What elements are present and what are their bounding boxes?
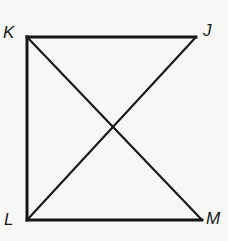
vertex-label-l: L	[4, 210, 13, 229]
vertex-label-j: J	[202, 21, 212, 40]
geometry-diagram: KJLM	[0, 0, 228, 241]
diagonals	[27, 37, 202, 220]
vertex-label-k: K	[3, 23, 15, 42]
vertex-label-m: M	[206, 209, 221, 228]
diagram-canvas: KJLM	[0, 0, 228, 241]
